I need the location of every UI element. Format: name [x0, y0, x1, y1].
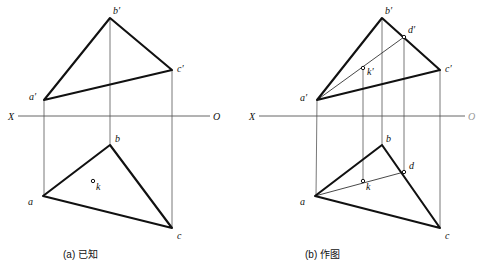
panel-b: a′ b′ c′ d′ k′ a b c d k X O [248, 5, 475, 241]
panel-b-triangle-upper [317, 18, 440, 100]
panel-a: a′ b′ c′ a b c k X O [7, 5, 220, 241]
panel-b-point-k-prime-marker [361, 66, 364, 69]
panel-a-label-b-prime: b′ [113, 5, 121, 16]
panel-b-triangle-lower [315, 145, 440, 228]
panel-b-projline-a [316, 100, 317, 196]
panel-b-construction-line-lower [315, 172, 404, 196]
panel-a-label-b: b [115, 133, 120, 144]
panel-b-point-d-prime-marker [402, 35, 405, 38]
panel-a-triangle-lower [43, 145, 172, 228]
panel-a-label-k: k [96, 181, 101, 192]
panel-b-axis-label-x: X [248, 111, 256, 122]
panel-b-label-c-prime: c′ [445, 63, 452, 74]
projection-svg: a′ b′ c′ a b c k X O [0, 0, 482, 269]
panel-b-label-d: d [409, 160, 415, 171]
panel-a-triangle-upper [44, 18, 172, 100]
caption-panel-a: (a) 已知 [63, 246, 98, 261]
panel-a-point-k-marker [91, 179, 94, 182]
panel-b-label-k: k [366, 181, 371, 192]
panel-b-axis-label-o: O [468, 111, 475, 122]
panel-b-label-a: a [300, 196, 305, 207]
panel-b-label-b: b [386, 133, 391, 144]
panel-b-label-a-prime: a′ [300, 92, 308, 103]
panel-b-point-k-marker [361, 179, 364, 182]
caption-panel-b: (b) 作图 [305, 246, 340, 261]
panel-b-label-b-prime: b′ [385, 5, 393, 16]
panel-a-label-c-prime: c′ [177, 63, 184, 74]
projection-figure: a′ b′ c′ a b c k X O [0, 0, 482, 269]
panel-b-label-k-prime: k′ [367, 66, 374, 77]
panel-b-label-d-prime: d′ [408, 24, 416, 35]
panel-b-label-c: c [445, 230, 450, 241]
panel-a-label-c: c [177, 230, 182, 241]
panel-a-label-a: a [28, 196, 33, 207]
panel-a-axis-label-o: O [213, 111, 220, 122]
panel-b-point-d-marker [402, 170, 405, 173]
panel-a-label-a-prime: a′ [29, 91, 37, 102]
panel-a-axis-label-x: X [7, 111, 15, 122]
